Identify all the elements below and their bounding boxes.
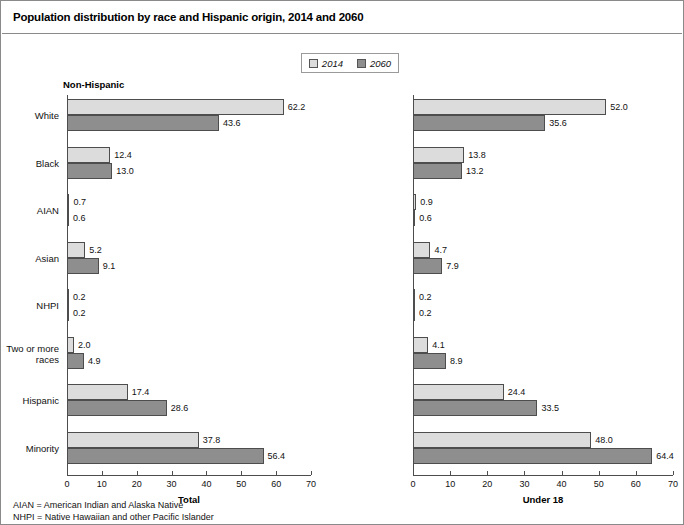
- bar-value-label: 12.4: [114, 150, 132, 160]
- footnote-nhpi: NHPI = Native Hawaiian and other Pacific…: [13, 511, 214, 523]
- x-axis-tick-label: 20: [475, 479, 499, 489]
- figure-container: Population distribution by race and Hisp…: [0, 0, 684, 525]
- category-label: Asian: [1, 253, 59, 264]
- bar-value-label: 62.2: [288, 102, 306, 112]
- plot-area: 010203040506070Under 1852.035.613.813.20…: [345, 95, 684, 505]
- bar-2014: [67, 337, 74, 353]
- bar-value-label: 37.8: [203, 435, 221, 445]
- x-axis-tick-label: 40: [194, 479, 218, 489]
- x-axis-tick: [599, 471, 600, 475]
- bar-2060: [413, 353, 446, 369]
- x-axis-tick: [413, 471, 414, 475]
- x-axis-tick-label: 40: [550, 479, 574, 489]
- x-axis-tick: [102, 471, 103, 475]
- category-label: Minority: [1, 443, 59, 454]
- bar-value-label: 5.2: [89, 245, 102, 255]
- bar-value-label: 28.6: [171, 403, 189, 413]
- bar-value-label: 4.7: [434, 245, 447, 255]
- x-axis-tick: [636, 471, 637, 475]
- bar-value-label: 48.0: [595, 435, 613, 445]
- bar-value-label: 35.6: [549, 118, 567, 128]
- x-axis-tick: [673, 471, 674, 475]
- bar-2060: [413, 258, 442, 274]
- bar-value-label: 0.7: [73, 197, 86, 207]
- category-label: Two or more races: [1, 343, 59, 365]
- bar-value-label: 43.6: [223, 118, 241, 128]
- bar-2060: [413, 448, 652, 464]
- bar-value-label: 13.2: [466, 166, 484, 176]
- bar-value-label: 0.2: [419, 308, 432, 318]
- bar-value-label: 17.4: [132, 387, 150, 397]
- legend-item-2060: 2060: [357, 58, 391, 69]
- x-axis-tick-label: 10: [438, 479, 462, 489]
- bar-2014: [67, 194, 69, 210]
- bar-2014: [67, 384, 128, 400]
- bar-2014: [413, 337, 428, 353]
- x-axis-tick: [524, 471, 525, 475]
- bar-value-label: 13.0: [116, 166, 134, 176]
- bar-2060: [413, 210, 415, 226]
- legend-item-2014: 2014: [309, 58, 343, 69]
- bar-2060: [67, 448, 264, 464]
- bar-value-label: 0.6: [73, 213, 86, 223]
- bar-2060: [413, 400, 537, 416]
- category-label: NHPI: [1, 300, 59, 311]
- plot-area: 010203040506070TotalWhite62.243.6Black12…: [1, 95, 341, 505]
- x-axis-title: Under 18: [483, 494, 603, 505]
- category-label: AIAN: [1, 205, 59, 216]
- x-axis-tick: [487, 471, 488, 475]
- x-axis-tick: [172, 471, 173, 475]
- bar-2060: [67, 163, 112, 179]
- bar-value-label: 64.4: [656, 451, 674, 461]
- x-axis-tick-label: 0: [401, 479, 425, 489]
- bar-value-label: 0.2: [419, 292, 432, 302]
- category-label: Black: [1, 158, 59, 169]
- chart-panel-under18: 010203040506070Under 1852.035.613.813.20…: [345, 79, 684, 499]
- bar-value-label: 0.9: [420, 197, 433, 207]
- x-axis-tick-label: 60: [264, 479, 288, 489]
- x-axis-tick-label: 50: [587, 479, 611, 489]
- x-axis-tick-label: 20: [125, 479, 149, 489]
- bar-value-label: 4.1: [432, 340, 445, 350]
- bar-2014: [413, 432, 591, 448]
- x-axis-line: [413, 475, 673, 476]
- bar-value-label: 0.2: [73, 292, 86, 302]
- bar-2060: [413, 163, 462, 179]
- bar-value-label: 24.4: [508, 387, 526, 397]
- bar-2060: [413, 115, 545, 131]
- bar-value-label: 0.2: [73, 308, 86, 318]
- x-axis-tick-label: 70: [299, 479, 323, 489]
- bar-2014: [67, 147, 110, 163]
- x-axis-tick: [137, 471, 138, 475]
- title-divider: [2, 33, 682, 34]
- x-axis-tick: [206, 471, 207, 475]
- x-axis-tick-label: 0: [55, 479, 79, 489]
- bar-2014: [67, 289, 69, 305]
- x-axis-tick-label: 50: [229, 479, 253, 489]
- bar-2060: [67, 400, 167, 416]
- bar-2014: [413, 242, 430, 258]
- x-axis-tick: [241, 471, 242, 475]
- bar-2060: [413, 305, 415, 321]
- bar-2014: [413, 289, 415, 305]
- category-label: Hispanic: [1, 395, 59, 406]
- x-axis-tick: [311, 471, 312, 475]
- bar-value-label: 9.1: [103, 261, 116, 271]
- x-axis-tick-label: 10: [90, 479, 114, 489]
- x-axis-tick: [562, 471, 563, 475]
- bar-2014: [67, 242, 85, 258]
- bar-2014: [67, 432, 199, 448]
- legend-swatch-icon-2014: [309, 59, 318, 68]
- x-axis-tick-label: 30: [512, 479, 536, 489]
- panel-header: Non-Hispanic: [63, 79, 124, 90]
- x-axis-tick: [450, 471, 451, 475]
- x-axis-tick: [67, 471, 68, 475]
- x-axis-tick-label: 30: [160, 479, 184, 489]
- bar-2060: [67, 353, 84, 369]
- bar-value-label: 0.6: [419, 213, 432, 223]
- bar-2060: [67, 210, 69, 226]
- bar-2060: [67, 115, 219, 131]
- footnotes: AIAN = American Indian and Alaska Native…: [13, 499, 214, 523]
- bar-2014: [413, 194, 416, 210]
- bar-value-label: 56.4: [268, 451, 286, 461]
